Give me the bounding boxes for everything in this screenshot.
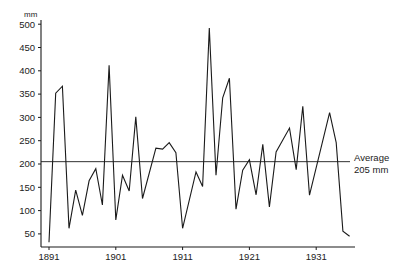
y-tick-label: 50 [24, 228, 35, 239]
y-tick-label: 100 [19, 205, 35, 216]
y-tick-label: 250 [19, 135, 35, 146]
rainfall-line-chart: 50100150200250300350400450500 1891190119… [0, 0, 406, 273]
x-tick-label: 1931 [306, 251, 327, 262]
y-axis: 50100150200250300350400450500 [19, 19, 41, 248]
rainfall-series-line [49, 28, 350, 242]
x-tick-label: 1921 [239, 251, 260, 262]
x-tick-label: 1911 [172, 251, 192, 262]
average-value-label: 205 mm [354, 164, 388, 175]
y-tick-label: 450 [19, 42, 35, 53]
x-tick-label: 1901 [105, 251, 126, 262]
average-label: Average [354, 152, 389, 163]
y-tick-label: 150 [19, 182, 35, 193]
x-axis: 18911901191119211931 [38, 247, 355, 262]
y-axis-unit-label: mm [24, 10, 38, 19]
y-tick-label: 200 [19, 158, 35, 169]
y-tick-label: 400 [19, 65, 35, 76]
y-tick-label: 300 [19, 112, 35, 123]
y-tick-label: 350 [19, 88, 35, 99]
y-tick-label: 500 [19, 19, 35, 30]
x-tick-label: 1891 [38, 251, 59, 262]
